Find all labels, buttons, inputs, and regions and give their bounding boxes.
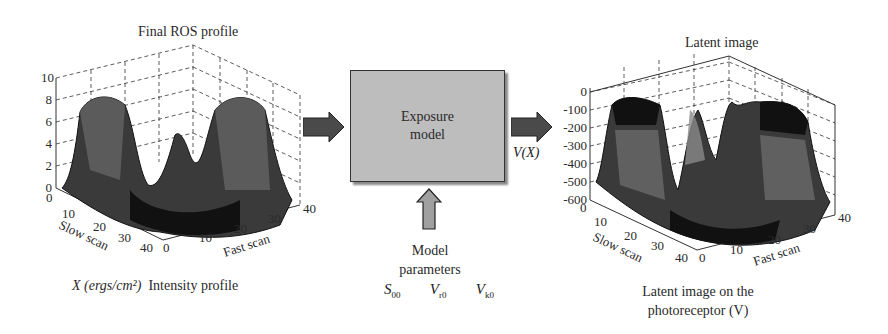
output-arrow-icon [511,112,553,142]
right-z-tick-300: -300 [563,138,587,153]
right-slow-tick-20: 20 [624,228,637,243]
exposure-model-line2: model [410,126,445,144]
right-caption-line1: Latent image on the [628,282,768,301]
parameters-up-arrow-icon [416,188,442,230]
left-plot-title: Final ROS profile [138,24,238,40]
left-fast-tick-40: 40 [303,201,316,216]
exposure-model-line1: Exposure [401,108,454,126]
right-z-tick-500: -500 [563,174,587,189]
left-caption-variable: X (ergs/cm²) [72,278,141,293]
output-label: V(X) [513,145,539,161]
right-caption: Latent image on the photoreceptor (V) [628,282,768,320]
param-vr0: Vr0 [430,281,447,300]
left-caption-text: Intensity profile [148,278,238,293]
left-z-tick-8: 8 [46,92,53,107]
right-slow-scan-label: Slow scan [591,229,646,265]
left-z-tick-6: 6 [46,114,53,129]
right-fast-tick-40: 40 [838,210,851,225]
model-parameters-line2: parameters [380,260,480,279]
right-slow-tick-40: 40 [675,250,688,265]
right-surface-plot: 0 -100 -200 -300 -400 -500 -600 0 10 20 … [560,50,888,280]
left-slow-tick-0: 0 [46,190,53,205]
model-parameter-symbols: S00 Vr0 Vk0 [384,281,494,300]
left-z-tick-4: 4 [46,136,53,151]
left-surface-plot: 0 2 4 6 8 10 0 10 20 30 40 0 10 20 30 40… [0,40,320,270]
left-slow-tick-30: 30 [118,230,131,245]
param-s00: S00 [384,281,401,300]
model-parameters-line1: Model [380,241,480,260]
right-z-tick-100: -100 [563,102,587,117]
right-caption-line2: photoreceptor (V) [628,301,768,320]
left-z-tick-2: 2 [46,158,53,173]
left-slow-tick-40: 40 [140,240,153,255]
left-fast-tick-10: 10 [199,230,212,245]
right-z-tick-400: -400 [563,156,587,171]
right-plot-title: Latent image [685,35,758,51]
left-z-tick-10: 10 [41,70,54,85]
param-vk0: Vk0 [476,281,494,300]
right-z-tick-0: 0 [581,84,588,99]
model-parameters-label: Model parameters [380,241,480,279]
right-fast-tick-0: 0 [699,250,706,265]
right-slow-tick-30: 30 [651,238,664,253]
right-slow-tick-0: 0 [580,200,587,215]
right-slow-tick-10: 10 [594,214,607,229]
right-fast-tick-10: 10 [730,242,743,257]
right-z-tick-200: -200 [563,120,587,135]
left-fast-tick-0: 0 [163,240,170,255]
left-caption: X (ergs/cm²) Intensity profile [72,276,238,295]
exposure-model-box: Exposure model [350,70,505,182]
input-arrow-icon [303,112,345,142]
left-fast-tick-20: 20 [234,221,247,236]
left-fast-tick-30: 30 [268,211,281,226]
right-fast-tick-30: 30 [803,221,816,236]
